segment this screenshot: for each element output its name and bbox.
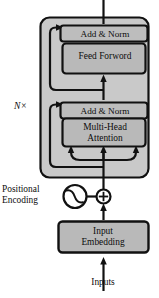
add-norm-top-box: [61, 26, 148, 42]
add-norm-bottom-box: [61, 103, 148, 119]
arrowhead-inputs-to-embedding: [100, 257, 107, 265]
input-embedding-box: [59, 222, 149, 253]
arrowhead-embedding-to-add: [100, 204, 107, 212]
multi-head-attention-box: [63, 119, 146, 147]
feed-forward-box: [63, 44, 146, 74]
diagram-canvas: [0, 0, 159, 298]
transformer-encoder-diagram: Add & Norm Feed Forword Add & Norm Multi…: [0, 0, 159, 298]
